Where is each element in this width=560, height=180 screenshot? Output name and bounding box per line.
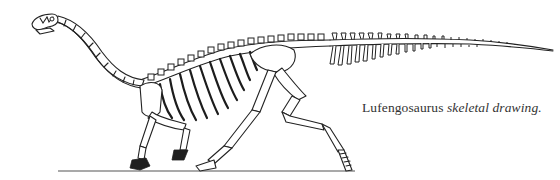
caption-description: skeletal drawing. [447, 100, 542, 115]
pectoral-girdle [140, 83, 186, 130]
lufengosaurus-skeleton-drawing [0, 0, 560, 180]
caption-genus: Lufengosaurus [362, 100, 444, 115]
hindlimbs [196, 96, 352, 171]
neck [56, 16, 144, 88]
dorsal-vertebrae [140, 34, 330, 88]
skeletal-figure: Lufengosaurus skeletal drawing. [0, 0, 560, 180]
tail [330, 33, 553, 65]
figure-caption: Lufengosaurus skeletal drawing. [362, 100, 542, 116]
skull [32, 14, 58, 34]
